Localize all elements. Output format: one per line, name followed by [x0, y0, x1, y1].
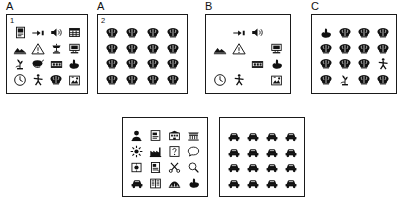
car-icon	[283, 176, 298, 191]
panel-label-a2: A	[97, 1, 104, 12]
brain-icon	[375, 73, 390, 88]
brain-icon	[165, 73, 180, 88]
computer-monitor-icon	[67, 41, 82, 56]
brain-icon	[105, 73, 120, 88]
car-icon	[245, 176, 260, 191]
car-icon	[245, 128, 260, 143]
loudspeaker-icon	[250, 25, 265, 40]
picture-frame-icon	[67, 73, 82, 88]
icon-grid-a1	[11, 25, 83, 88]
car-icon	[283, 128, 298, 143]
clock-icon	[13, 73, 28, 88]
car-icon	[283, 144, 298, 159]
brain-icon	[356, 25, 371, 40]
factory-icon	[148, 144, 163, 159]
icon-grid-a2	[102, 25, 183, 88]
icon-grid-bottom-right	[224, 128, 300, 191]
brain-icon	[337, 25, 352, 40]
brain-icon	[125, 25, 140, 40]
scissors-icon	[167, 160, 182, 175]
grid-table-icon	[67, 25, 82, 40]
pointing-hand-icon	[31, 25, 46, 40]
pointing-hand-icon	[231, 25, 246, 40]
car-icon	[264, 160, 279, 175]
car-icon	[245, 144, 260, 159]
document-icon	[13, 25, 28, 40]
car-icon	[264, 176, 279, 191]
empty-cell	[250, 41, 265, 56]
film-strip-icon	[49, 57, 64, 72]
icon-panel-bottom-right	[219, 117, 305, 197]
paint-roller-icon	[31, 57, 46, 72]
icon-panel-a2: 2	[97, 14, 188, 94]
panel-label-c: C	[311, 1, 319, 12]
car-icon	[283, 160, 298, 175]
question-box-icon	[167, 144, 182, 159]
icon-grid-bottom-left	[127, 128, 203, 191]
icon-grid-c	[316, 25, 392, 88]
brain-icon	[165, 25, 180, 40]
open-book-icon	[148, 176, 163, 191]
computer-monitor-icon	[269, 41, 284, 56]
mountain-icon	[212, 41, 227, 56]
brain-icon	[375, 41, 390, 56]
panel-inner-number-a2: 2	[101, 17, 105, 25]
car-icon	[226, 128, 241, 143]
brain-icon	[356, 41, 371, 56]
brain-icon	[145, 73, 160, 88]
brain-icon	[105, 57, 120, 72]
empty-cell	[212, 25, 227, 40]
open-page-icon	[148, 160, 163, 175]
icon-panel-c	[311, 14, 397, 94]
brain-icon	[49, 73, 64, 88]
panel-label-b: B	[205, 1, 212, 12]
film-strip-icon	[250, 57, 265, 72]
brain-icon	[165, 41, 180, 56]
car-icon	[245, 160, 260, 175]
magnifier-icon	[186, 160, 201, 175]
icon-grid-b	[210, 25, 286, 88]
panel-label-a1: A	[6, 1, 13, 12]
brain-icon	[145, 41, 160, 56]
building-icon	[167, 128, 182, 143]
warning-triangle-icon	[31, 41, 46, 56]
brain-icon	[145, 25, 160, 40]
brain-icon	[105, 41, 120, 56]
car-icon	[226, 144, 241, 159]
mountain-icon	[13, 41, 28, 56]
note-page-icon	[148, 128, 163, 143]
brain-icon	[318, 57, 333, 72]
brain-icon	[165, 57, 180, 72]
panel-inner-number-a1: 1	[10, 17, 14, 25]
running-person-icon	[231, 73, 246, 88]
empty-cell	[250, 73, 265, 88]
bench-icon	[186, 128, 201, 143]
brain-icon	[375, 25, 390, 40]
boxed-symbol-icon	[129, 160, 144, 175]
icon-panel-bottom-left	[122, 117, 208, 197]
brain-icon	[125, 73, 140, 88]
car-icon	[264, 128, 279, 143]
telephone-icon	[49, 41, 64, 56]
brain-icon	[318, 73, 333, 88]
icon-panel-b	[205, 14, 291, 94]
empty-cell	[269, 25, 284, 40]
brain-icon	[125, 41, 140, 56]
hand-gesture-icon	[67, 57, 82, 72]
car-icon	[129, 176, 144, 191]
speech-bubble-icon	[186, 144, 201, 159]
clock-icon	[212, 73, 227, 88]
picture-frame-icon	[269, 73, 284, 88]
hand-gesture-icon	[318, 25, 333, 40]
car-icon	[264, 144, 279, 159]
person-head-icon	[129, 128, 144, 143]
sun-flower-icon	[129, 144, 144, 159]
brain-icon	[337, 41, 352, 56]
running-person-icon	[375, 57, 390, 72]
brain-icon	[105, 25, 120, 40]
brain-icon	[337, 57, 352, 72]
empty-cell	[212, 57, 227, 72]
brain-icon	[318, 41, 333, 56]
plant-icon	[13, 57, 28, 72]
car-icon	[226, 160, 241, 175]
